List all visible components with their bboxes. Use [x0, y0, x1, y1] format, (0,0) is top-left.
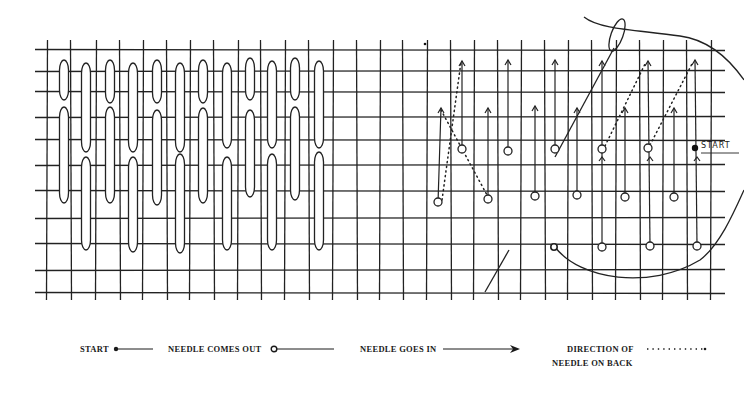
grid-v-line: [238, 40, 239, 300]
legend-needle-out-label: NEEDLE COMES OUT: [168, 343, 262, 355]
grid-v-line: [592, 40, 593, 300]
grid-v-line: [190, 40, 191, 300]
start-label-on-diagram: START: [701, 141, 731, 150]
grid-v-line: [427, 40, 428, 300]
needle-eye-icon: [606, 17, 629, 53]
small-arrowhead-icon: [694, 157, 700, 161]
grid-v-line: [120, 40, 121, 300]
grid-v-line: [403, 40, 404, 300]
stitch-capsule: [153, 60, 162, 103]
needle-in-arrow-line: [438, 108, 441, 203]
needle-comes-out-circle: [598, 243, 606, 251]
stitch-capsule: [176, 63, 185, 152]
grid-v-line: [616, 40, 617, 300]
grid-v-line: [333, 40, 334, 300]
stitch-capsule: [82, 63, 91, 152]
needle-comes-out-circle: [458, 145, 466, 153]
legend-direction-line2: NEEDLE ON BACK: [552, 358, 633, 368]
legend-needle-in: NEEDLE GOES IN: [360, 343, 522, 355]
legend-start: START: [80, 343, 155, 355]
start-dot-icon: [692, 145, 698, 151]
needle-comes-out-circle: [504, 147, 512, 155]
grid-v-line: [380, 40, 381, 300]
stitch-capsule: [223, 157, 232, 250]
stitch-capsule: [106, 60, 115, 103]
small-dot: [424, 43, 427, 46]
stitch-capsule: [315, 152, 324, 250]
stitch-instruction-sample: [424, 17, 744, 292]
grid-v-line: [143, 40, 144, 300]
grid-v-line: [711, 40, 712, 300]
grid-v-line: [521, 40, 522, 300]
grid-v-line: [167, 40, 168, 300]
needle-comes-out-circle: [573, 191, 581, 199]
grid-v-line: [687, 40, 688, 300]
grid-v-line: [96, 40, 97, 300]
needle-comes-out-circle: [551, 145, 559, 153]
grid-v-line: [498, 40, 499, 300]
dotted-line-icon: [646, 346, 708, 354]
stitch-capsule: [199, 108, 208, 203]
legend-needle-in-label: NEEDLE GOES IN: [360, 343, 436, 355]
needle-comes-out-circle: [670, 193, 678, 201]
legend: START NEEDLE COMES OUT NEEDLE GOES IN DI…: [0, 343, 744, 393]
arrow-right-icon: [442, 344, 522, 354]
legend-direction-line1: DIRECTION OF: [567, 344, 633, 354]
grid-v-line: [261, 40, 262, 300]
needle-comes-out-circle: [646, 242, 654, 250]
needle-comes-out-circle: [621, 193, 629, 201]
needle-comes-out-circle: [531, 192, 539, 200]
grid-v-line: [545, 40, 546, 300]
stitch-capsule: [291, 107, 300, 200]
grid-v-line: [640, 40, 641, 300]
stitch-capsule: [291, 58, 300, 100]
stitch-capsule: [60, 60, 69, 100]
needle-tip: [485, 250, 509, 292]
grid-v-line: [568, 40, 569, 300]
needle-comes-out-circle: [484, 195, 492, 203]
legend-needle-out: NEEDLE COMES OUT: [168, 343, 336, 355]
start-dot-line-icon: [113, 344, 155, 354]
stitch-capsule: [199, 60, 208, 103]
stitch-capsule: [268, 154, 277, 250]
stitch-capsule: [129, 63, 138, 152]
grid-v-line: [214, 40, 215, 300]
grid-v-line: [451, 40, 452, 300]
stitch-capsule: [246, 58, 255, 100]
stitch-capsule: [176, 154, 185, 253]
stitch-capsule: [223, 63, 232, 148]
grid-v-line: [285, 40, 286, 300]
needle-comes-out-circle: [693, 242, 701, 250]
stitch-capsule: [315, 61, 324, 148]
legend-start-label: START: [80, 343, 109, 355]
stitch-capsule: [129, 157, 138, 252]
needle-comes-out-circle: [598, 145, 606, 153]
grid-v-line: [47, 40, 48, 300]
grid-v-line: [663, 40, 664, 300]
open-circle-line-icon: [270, 344, 336, 354]
grid-v-line: [357, 40, 358, 300]
stitch-capsule: [268, 61, 277, 148]
stitch-capsule: [153, 110, 162, 205]
stitch-capsule: [246, 110, 255, 197]
stitch-diagram-canvas: [0, 0, 744, 320]
canvas-grid: [35, 40, 725, 300]
grid-v-line: [309, 40, 310, 300]
grid-v-line: [71, 40, 72, 300]
small-arrowhead-icon: [647, 157, 653, 161]
needle-comes-out-circle: [644, 144, 652, 152]
grid-v-line: [474, 40, 475, 300]
stitch-capsule: [106, 107, 115, 203]
stitch-capsule: [82, 157, 91, 250]
needle-comes-out-circle: [434, 198, 442, 206]
thread-anchor-circle: [551, 244, 557, 250]
stitch-capsule: [60, 107, 69, 203]
worked-stitch-sample: [60, 58, 324, 253]
